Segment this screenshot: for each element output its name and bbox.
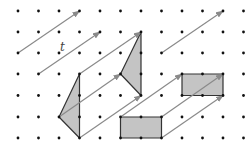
- grid-dot: [58, 116, 61, 119]
- grid-dot: [37, 10, 40, 13]
- rectangle-image: [182, 74, 223, 96]
- grid-dot: [17, 116, 20, 119]
- grid-dot: [242, 116, 245, 119]
- grid-dot: [160, 10, 163, 13]
- grid-dot: [78, 10, 81, 13]
- grid-dot: [201, 94, 204, 97]
- grid-dot: [160, 94, 163, 97]
- grid-dot: [99, 73, 102, 76]
- grid-dot: [242, 94, 245, 97]
- grid-dot: [99, 31, 102, 34]
- grid-dot: [181, 137, 184, 140]
- grid-dot: [119, 94, 122, 97]
- grid-dot: [201, 116, 204, 119]
- grid-dot: [17, 31, 20, 34]
- translation-arrow: [162, 96, 224, 139]
- grid-dot: [181, 73, 184, 76]
- grid-dot: [160, 116, 163, 119]
- grid-dot: [140, 10, 143, 13]
- grid-dot: [99, 52, 102, 55]
- triangle-original: [59, 74, 80, 138]
- grid-dot: [201, 137, 204, 140]
- translation-arrow: [39, 32, 101, 74]
- grid-dot: [58, 10, 61, 13]
- grid-dot: [242, 10, 245, 13]
- translation-arrow: [18, 11, 80, 53]
- translation-arrow: [59, 74, 121, 117]
- grid-dot: [78, 73, 81, 76]
- grid-dot: [99, 116, 102, 119]
- vector-label-t: t: [60, 40, 65, 54]
- grid-dot: [160, 52, 163, 55]
- grid-dot: [119, 137, 122, 140]
- translation-diagram: t: [0, 0, 252, 159]
- grid-dot: [78, 31, 81, 34]
- grid-dot: [119, 52, 122, 55]
- grid-dot: [222, 52, 225, 55]
- grid-dot: [242, 31, 245, 34]
- grid-dot: [78, 137, 81, 140]
- grid-dot: [140, 73, 143, 76]
- grid-dot: [78, 116, 81, 119]
- grid-dot: [222, 94, 225, 97]
- grid-dot: [58, 31, 61, 34]
- grid-dot: [17, 94, 20, 97]
- grid-dot: [181, 31, 184, 34]
- grid-dot: [99, 137, 102, 140]
- grid-dot: [181, 52, 184, 55]
- grid-dot: [140, 137, 143, 140]
- grid-dot: [201, 10, 204, 13]
- rectangle-original: [121, 117, 162, 138]
- grid-dot: [222, 31, 225, 34]
- grid-dot: [119, 73, 122, 76]
- grid-dot: [222, 137, 225, 140]
- triangle-image: [121, 32, 142, 96]
- grid-dot: [17, 137, 20, 140]
- grid-dot: [58, 94, 61, 97]
- grid-dot: [140, 31, 143, 34]
- grid-dot: [242, 73, 245, 76]
- grid-dot: [160, 31, 163, 34]
- grid-dot: [99, 10, 102, 13]
- shapes-layer: [59, 32, 223, 138]
- grid-dot: [99, 94, 102, 97]
- grid-dot: [140, 116, 143, 119]
- grid-dot: [17, 52, 20, 55]
- grid-dot: [140, 52, 143, 55]
- grid-dot: [78, 52, 81, 55]
- grid-dot: [37, 73, 40, 76]
- grid-dot: [37, 31, 40, 34]
- grid-dot: [201, 52, 204, 55]
- grid-dot: [17, 73, 20, 76]
- grid-dot: [242, 52, 245, 55]
- grid-dot: [119, 31, 122, 34]
- grid-dot: [222, 116, 225, 119]
- grid-dot: [222, 10, 225, 13]
- grid-dot: [181, 94, 184, 97]
- grid-dot: [58, 73, 61, 76]
- grid-dot: [58, 137, 61, 140]
- grid-dot: [37, 52, 40, 55]
- grid-dot: [78, 94, 81, 97]
- grid-dot: [160, 137, 163, 140]
- grid-dot: [119, 116, 122, 119]
- grid-dot: [222, 73, 225, 76]
- grid-dot: [201, 73, 204, 76]
- grid-dot: [37, 116, 40, 119]
- grid-dot: [17, 10, 20, 13]
- grid-dot: [140, 94, 143, 97]
- grid-dot: [37, 94, 40, 97]
- grid-dot: [181, 10, 184, 13]
- translation-arrow: [162, 11, 224, 53]
- grid-dot: [181, 116, 184, 119]
- grid-dot: [201, 31, 204, 34]
- grid-dot: [119, 10, 122, 13]
- grid-dot: [37, 137, 40, 140]
- grid-dot: [242, 137, 245, 140]
- grid-dot: [160, 73, 163, 76]
